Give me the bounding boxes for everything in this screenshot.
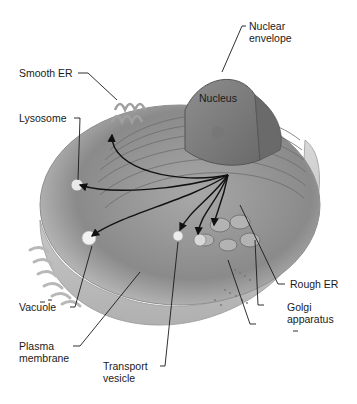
label-transport-vesicle: Transport vesicle: [103, 360, 148, 384]
label-golgi-apparatus: Golgi apparatus: [287, 301, 334, 325]
label-smooth-er: Smooth ER: [19, 67, 73, 79]
label-plasma-membrane: Plasma membrane: [19, 340, 69, 364]
transport-vesicle: [173, 231, 183, 241]
label-vacuole: Vacuole: [19, 301, 56, 313]
label-rough-er: Rough ER: [290, 278, 338, 290]
label-lysosome: Lysosome: [19, 112, 66, 124]
cell-diagram: Nuclear envelope Smooth ER Nucleus Lysos…: [0, 0, 357, 404]
label-nuclear-envelope: Nuclear envelope: [249, 20, 292, 44]
label-nucleus: Nucleus: [199, 92, 237, 104]
vacuole: [82, 231, 96, 245]
